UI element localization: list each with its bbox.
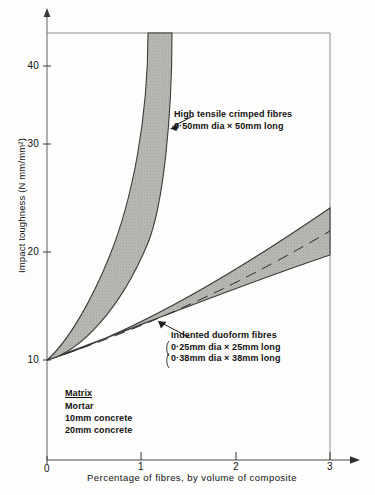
matrix-legend-item-10mm-concrete: 10mm concrete (65, 412, 132, 424)
y-axis-title: Impact toughness (N mm/mm²) (16, 111, 27, 301)
chart-figure: 10 20 30 40 0 1 2 3 Impact toughness (N … (0, 0, 375, 495)
annotation-duoform-line-3: 0·38mm dia × 38mm long (171, 353, 281, 363)
matrix-legend: Matrix Mortar 10mm concrete 20mm concret… (65, 387, 132, 436)
x-axis-arrow (350, 456, 360, 464)
band-crimped (47, 33, 172, 360)
x-tick-label-2: 2 (228, 461, 244, 472)
x-tick-label-3: 3 (322, 461, 338, 472)
x-axis-title: Percentage of fibres, by volume of compo… (47, 472, 337, 483)
matrix-legend-title: Matrix (65, 387, 132, 399)
plot-area (0, 0, 375, 495)
matrix-legend-item-mortar: Mortar (65, 400, 132, 412)
annotation-duoform-line-1: Indented duoform fibres (171, 330, 277, 340)
y-tick-label-40: 40 (17, 60, 39, 71)
annotation-duoform-line-2: 0·25mm dia × 25mm long (171, 342, 281, 352)
x-tick-label-1: 1 (133, 461, 149, 472)
annotation-duoform-fibres: Indented duoform fibres 0·25mm dia × 25m… (171, 330, 281, 365)
annotation-crimped-fibres: High tensile crimped fibres 0·50mm dia ×… (174, 109, 292, 132)
annotation-crimped-line-1: High tensile crimped fibres (174, 109, 292, 119)
matrix-legend-item-20mm-concrete: 20mm concrete (65, 424, 132, 436)
y-axis-arrow (44, 8, 51, 17)
y-tick-label-10: 10 (17, 354, 39, 365)
annotation-crimped-line-2: 0·50mm dia × 50mm long (174, 121, 284, 131)
